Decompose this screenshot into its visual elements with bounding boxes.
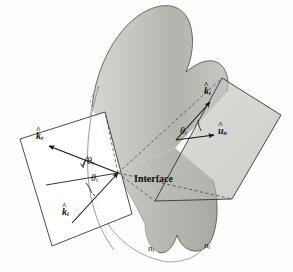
label-theta-reflected: θr [87,156,94,167]
label-k-reflected: ^kr [36,131,43,142]
optics-refraction-diagram: ^kr ^ki ^kt ^un θr θi θt Interface ni nt [0,0,293,272]
hat-accent-k-reflected: ^ [36,126,41,135]
hat-accent-k-incident: ^ [62,202,67,211]
label-interface: Interface [134,174,173,184]
label-k-transmitted: ^kt [204,86,211,97]
label-theta-transmitted: θt [180,126,187,137]
label-u-normal: ^un [218,126,227,137]
label-k-incident: ^ki [62,207,69,218]
hat-accent-k-transmitted: ^ [204,81,209,90]
hat-accent-u-normal: ^ [218,121,223,130]
diagram-canvas [0,0,293,272]
label-theta-incident: θi [91,173,98,184]
label-n-transmitted: nt [204,241,210,251]
label-n-incident: ni [148,244,154,254]
